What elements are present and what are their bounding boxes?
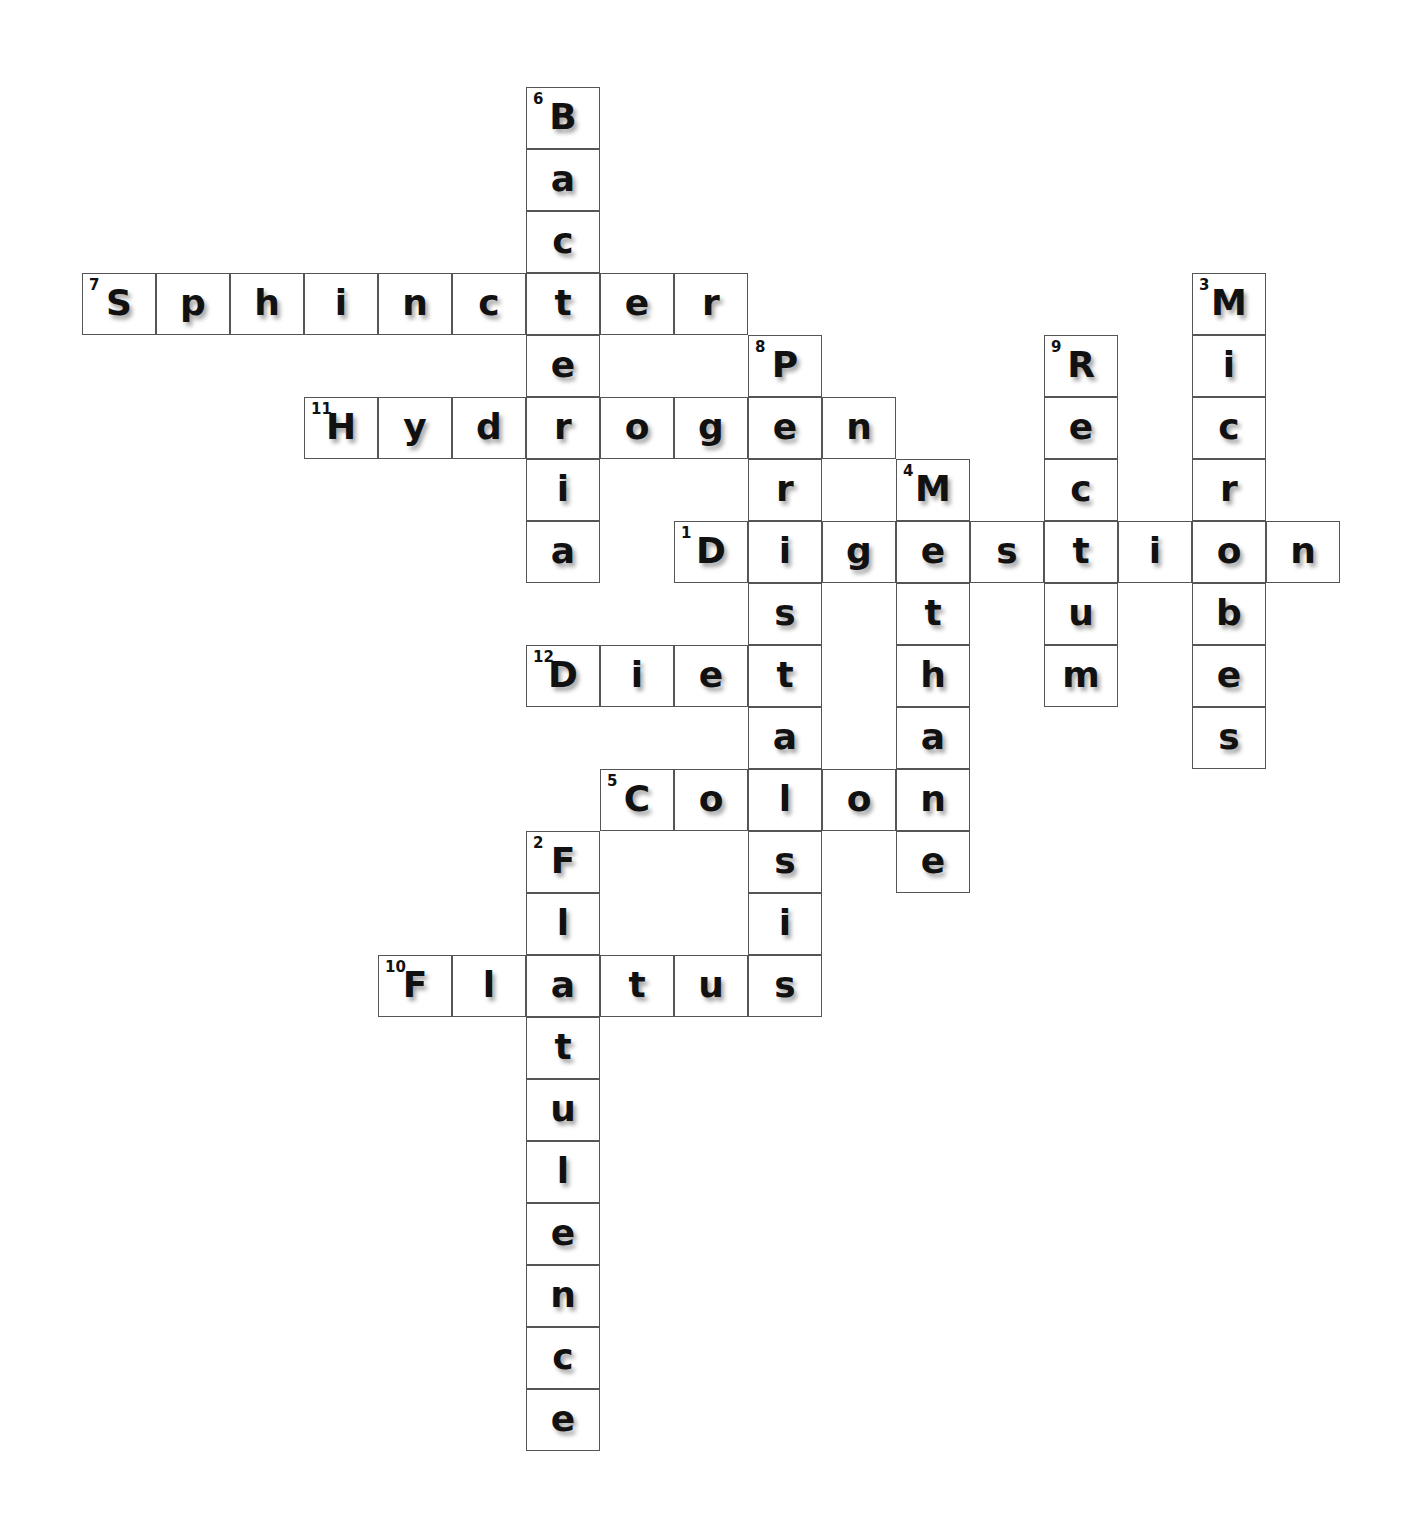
crossword-cell[interactable]: i (748, 521, 822, 583)
crossword-cell[interactable]: 5C (600, 769, 674, 831)
cell-letter: t (897, 593, 969, 633)
crossword-cell[interactable]: e (600, 273, 674, 335)
crossword-cell[interactable]: 9R (1044, 335, 1118, 397)
crossword-cell[interactable]: t (526, 1017, 600, 1079)
crossword-cell[interactable]: g (822, 521, 896, 583)
crossword-cell[interactable]: o (822, 769, 896, 831)
crossword-cell[interactable]: r (748, 459, 822, 521)
crossword-cell[interactable]: e (896, 521, 970, 583)
crossword-cell[interactable]: c (1044, 459, 1118, 521)
crossword-cell[interactable]: o (1192, 521, 1266, 583)
crossword-cell[interactable]: u (674, 955, 748, 1017)
cell-letter: i (1119, 531, 1191, 571)
cell-letter: r (675, 283, 747, 323)
crossword-cell[interactable]: n (526, 1265, 600, 1327)
crossword-cell[interactable]: l (526, 1141, 600, 1203)
crossword-cell[interactable]: n (822, 397, 896, 459)
crossword-cell[interactable]: h (230, 273, 304, 335)
crossword-cell[interactable]: p (156, 273, 230, 335)
crossword-cell[interactable]: i (526, 459, 600, 521)
crossword-cell[interactable]: 8P (748, 335, 822, 397)
crossword-cell[interactable]: 6B (526, 87, 600, 149)
cell-letter: t (527, 1027, 599, 1067)
crossword-cell[interactable]: y (378, 397, 452, 459)
crossword-cell[interactable]: a (748, 707, 822, 769)
crossword-cell[interactable]: a (526, 149, 600, 211)
crossword-cell[interactable]: 10F (378, 955, 452, 1017)
crossword-cell[interactable]: s (1192, 707, 1266, 769)
crossword-cell[interactable]: l (748, 769, 822, 831)
crossword-cell[interactable]: n (378, 273, 452, 335)
cell-letter: e (601, 283, 673, 323)
cell-letter: F (527, 841, 599, 881)
crossword-cell[interactable]: n (896, 769, 970, 831)
crossword-cell[interactable]: t (600, 955, 674, 1017)
crossword-cell[interactable]: e (1044, 397, 1118, 459)
cell-letter: l (453, 965, 525, 1005)
crossword-cell[interactable]: t (526, 273, 600, 335)
crossword-cell[interactable]: m (1044, 645, 1118, 707)
crossword-cell[interactable]: r (1192, 459, 1266, 521)
crossword-cell[interactable]: h (896, 645, 970, 707)
crossword-cell[interactable]: 3M (1192, 273, 1266, 335)
crossword-cell[interactable]: s (748, 955, 822, 1017)
crossword-cell[interactable]: i (1118, 521, 1192, 583)
crossword-cell[interactable]: e (526, 335, 600, 397)
crossword-cell[interactable]: 12D (526, 645, 600, 707)
cell-letter: F (379, 965, 451, 1005)
crossword-cell[interactable]: u (526, 1079, 600, 1141)
crossword-cell[interactable]: 2F (526, 831, 600, 893)
crossword-cell[interactable]: 1D (674, 521, 748, 583)
cell-letter: e (1193, 655, 1265, 695)
cell-letter: D (527, 655, 599, 695)
crossword-cell[interactable]: n (1266, 521, 1340, 583)
crossword-cell[interactable]: i (1192, 335, 1266, 397)
cell-letter: o (1193, 531, 1265, 571)
crossword-cell[interactable]: u (1044, 583, 1118, 645)
cell-letter: c (453, 283, 525, 323)
cell-letter: o (601, 407, 673, 447)
crossword-cell[interactable]: i (748, 893, 822, 955)
cell-letter: C (601, 779, 673, 819)
crossword-cell[interactable]: e (674, 645, 748, 707)
cell-letter: s (749, 593, 821, 633)
crossword-cell[interactable]: 11H (304, 397, 378, 459)
crossword-cell[interactable]: t (1044, 521, 1118, 583)
cell-letter: r (1193, 469, 1265, 509)
crossword-cell[interactable]: a (526, 521, 600, 583)
crossword-cell[interactable]: 7S (82, 273, 156, 335)
crossword-cell[interactable]: r (526, 397, 600, 459)
cell-letter: o (823, 779, 895, 819)
cell-letter: t (1045, 531, 1117, 571)
crossword-cell[interactable]: s (748, 583, 822, 645)
crossword-cell[interactable]: t (896, 583, 970, 645)
crossword-cell[interactable]: r (674, 273, 748, 335)
crossword-cell[interactable]: e (748, 397, 822, 459)
crossword-cell[interactable]: e (526, 1389, 600, 1451)
crossword-cell[interactable]: l (452, 955, 526, 1017)
crossword-cell[interactable]: o (600, 397, 674, 459)
crossword-cell[interactable]: o (674, 769, 748, 831)
crossword-cell[interactable]: i (600, 645, 674, 707)
crossword-cell[interactable]: d (452, 397, 526, 459)
crossword-cell[interactable]: a (896, 707, 970, 769)
crossword-cell[interactable]: l (526, 893, 600, 955)
crossword-cell[interactable]: a (526, 955, 600, 1017)
cell-letter: c (527, 1337, 599, 1377)
crossword-cell[interactable]: 4M (896, 459, 970, 521)
crossword-cell[interactable]: t (748, 645, 822, 707)
crossword-cell[interactable]: c (526, 211, 600, 273)
cell-letter: a (749, 717, 821, 757)
crossword-cell[interactable]: e (1192, 645, 1266, 707)
crossword-cell[interactable]: c (526, 1327, 600, 1389)
crossword-cell[interactable]: b (1192, 583, 1266, 645)
crossword-cell[interactable]: i (304, 273, 378, 335)
cell-letter: e (897, 841, 969, 881)
crossword-cell[interactable]: e (526, 1203, 600, 1265)
crossword-cell[interactable]: g (674, 397, 748, 459)
crossword-cell[interactable]: s (970, 521, 1044, 583)
crossword-cell[interactable]: c (1192, 397, 1266, 459)
crossword-cell[interactable]: e (896, 831, 970, 893)
crossword-cell[interactable]: c (452, 273, 526, 335)
crossword-cell[interactable]: s (748, 831, 822, 893)
